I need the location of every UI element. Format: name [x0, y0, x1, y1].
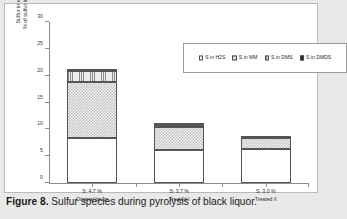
legend-item-dms: S in DMS	[265, 55, 293, 60]
x-axis-tick	[92, 184, 93, 187]
x-axis-category-2-line-1: S: 3.7 %	[136, 188, 223, 196]
y-axis-tick-label: 0	[40, 175, 43, 180]
x-axis-category-3-line-1: S: 3.0 %	[222, 188, 309, 196]
legend-label-h2s: S in H2S	[205, 55, 225, 60]
bar-segment-h2s	[241, 149, 291, 183]
figure-number: Figure 8.	[6, 196, 48, 207]
bar-segment-mm	[241, 138, 291, 149]
bar-segment-mm	[67, 82, 117, 138]
x-axis-category-1-line-1: S: 4.7 %	[49, 188, 136, 196]
y-axis-line	[49, 22, 50, 184]
bar-segment-dms	[241, 136, 291, 138]
y-axis-tick	[45, 102, 49, 103]
bar-segment-dms	[67, 71, 117, 81]
legend-swatch-mm-icon	[232, 56, 237, 61]
legend-item-h2s: S in H2S	[199, 55, 226, 60]
chart-panel: Sulfur in volatile product: % of sulfur …	[4, 3, 318, 193]
legend-swatch-dmds-icon	[300, 56, 305, 61]
bar-segment-mm	[154, 127, 204, 151]
y-axis-tick-label: 25	[37, 41, 43, 46]
bar-segment-dmds	[67, 69, 117, 71]
bar-segment-dmds	[154, 123, 204, 125]
y-axis-tick	[45, 21, 49, 22]
y-axis-title-line-2: % of sulfur in untreated liquor	[22, 0, 29, 44]
legend-swatch-dms-icon	[265, 56, 270, 61]
legend-label-dms: S in DMS	[271, 55, 293, 60]
legend-swatch-h2s-icon	[199, 56, 204, 61]
y-axis-title-line-1: Sulfur in volatile product:	[15, 0, 22, 44]
x-axis-tick	[266, 184, 267, 187]
legend-row: S in H2S S in MM S in DMS S in D	[184, 55, 346, 60]
x-axis-tick	[222, 184, 223, 187]
y-axis-tick	[45, 182, 49, 183]
chart-legend: S in H2S S in MM S in DMS S in D	[183, 43, 347, 73]
y-axis-title: Sulfur in volatile product: % of sulfur …	[15, 0, 30, 44]
plot-frame: 0 5 10 15 20 25 30	[49, 22, 309, 184]
y-axis-tick-label: 10	[37, 122, 43, 127]
y-axis-tick-label: 15	[37, 95, 43, 100]
x-axis-tick	[136, 184, 137, 187]
plot-area: 0 5 10 15 20 25 30	[49, 22, 309, 184]
figure-caption: Figure 8. Sulfur species during pyrolysi…	[6, 196, 318, 207]
x-axis-tick	[308, 184, 309, 187]
y-axis-tick-label: 30	[37, 15, 43, 20]
bar-segment-h2s	[154, 150, 204, 183]
legend-label-dmds: S in DMDS	[306, 55, 331, 60]
legend-item-dmds: S in DMDS	[300, 55, 332, 60]
y-axis-tick	[45, 128, 49, 129]
bar-segment-h2s	[67, 138, 117, 183]
x-axis-tick	[179, 184, 180, 187]
y-axis-tick	[45, 155, 49, 156]
figure-caption-text: Sulfur species during pyrolysis of black…	[48, 196, 256, 207]
y-axis-tick-label: 5	[40, 148, 43, 153]
legend-item-mm: S in MM	[232, 55, 257, 60]
y-axis-tick	[45, 48, 49, 49]
y-axis-tick	[45, 75, 49, 76]
legend-label-mm: S in MM	[239, 55, 258, 60]
y-axis-tick-label: 20	[37, 68, 43, 73]
